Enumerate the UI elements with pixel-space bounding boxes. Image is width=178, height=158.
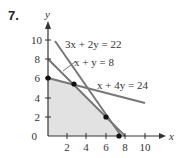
x-axis-arrow-icon: [159, 133, 166, 139]
x-tick-label: 10: [140, 141, 152, 153]
x-tick-label: 6: [103, 141, 109, 153]
vertex-point: [45, 75, 50, 80]
vertex-point: [71, 81, 76, 86]
x-tick-label: 8: [122, 141, 128, 153]
x-axis-label: x: [168, 130, 174, 142]
y-axis-arrow-icon: [45, 21, 51, 29]
y-tick-label: 8: [35, 53, 41, 65]
vertex-point: [103, 114, 108, 119]
y-tick-label: 2: [35, 111, 41, 123]
feasible-region-chart: 2 4 6 8 10 0 2 4 6 8 10 x y 3x + 2y = 22…: [0, 0, 178, 158]
label-x-4y-24: x + 4y = 24: [97, 79, 148, 91]
y-tick-label: 4: [35, 92, 41, 104]
label-x-y-8: x + y = 8: [74, 56, 114, 68]
vertex-point: [116, 133, 121, 138]
y-tick-label: 0: [32, 130, 38, 142]
y-axis-label: y: [44, 8, 50, 20]
y-tick-label: 10: [31, 34, 43, 46]
x-tick-label: 4: [83, 141, 89, 153]
label-3x-2y-22: 3x + 2y = 22: [65, 38, 121, 50]
y-tick-label: 6: [35, 72, 41, 84]
x-tick-label: 2: [64, 141, 70, 153]
